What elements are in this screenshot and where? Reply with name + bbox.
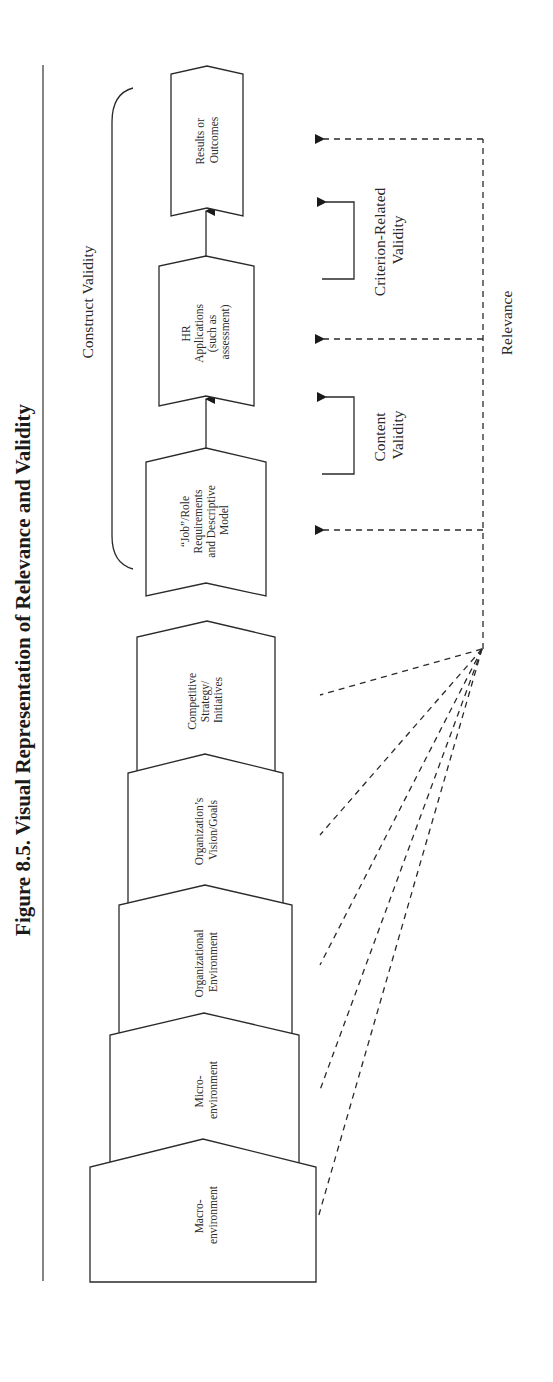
label-line: Criterion-Related [371,187,388,296]
box-label-line: Strategy/ [199,680,212,722]
box-label-line: Requirements [192,489,205,553]
box-label-line: Competitive [186,673,199,730]
label-line: Validity [389,215,406,264]
svg-text:Competitive Strategy/: Competitive Strategy/ Initiatives [186,670,224,730]
box-label-line: environment [207,1060,219,1119]
label-line: Content [371,412,388,462]
figure-title: Figure 8.5. Visual Representation of Rel… [11,404,35,936]
relevance-connectors [318,139,483,1218]
content-validity-bracket [322,397,354,474]
construct-validity-brace [112,88,133,569]
relevance-label: Relevance [498,291,515,356]
box-label-line: Model [218,505,230,535]
relevance-line-competitive [320,649,482,695]
box-label-line: environment [207,1185,219,1244]
box-macro-environment: Macro- environment [90,1139,316,1282]
box-label-line: (such as [206,314,219,352]
relevance-line-macro [318,649,482,1218]
box-job-role-requirements: “Job”/Role Requirements and Descriptive … [146,448,266,596]
content-validity-label: Content Validity [371,409,406,462]
construct-validity-label: Construct Validity [79,245,96,358]
box-label-line: Outcomes [208,116,220,163]
box-label-line: Organizational [193,929,206,997]
criterion-validity-bracket [322,202,354,279]
criterion-validity-label: Criterion-Related Validity [371,184,406,296]
label-line: Validity [389,410,406,459]
box-label-line: Environment [207,931,219,992]
box-label-line: Applications [193,304,206,363]
box-label-line: Vision/Goals [207,799,219,860]
box-label-line: Initiatives [212,676,224,723]
box-label-line: Organization’s [193,797,206,865]
box-results-outcomes: Results or Outcomes [171,66,243,216]
box-label-line: HR [180,325,192,341]
box-label-line: Micro- [193,1075,205,1107]
box-label-line: “Job”/Role [179,496,191,547]
box-hr-applications: HR Applications (such as assessment) [159,256,254,406]
box-label-line: assessment) [219,304,232,359]
box-label-line: Macro- [193,1199,205,1233]
box-label-line: Results or [194,118,206,164]
relevance-line-micro [320,649,482,1090]
figure-canvas: Figure 8.5. Visual Representation of Rel… [0,0,553,1382]
box-label-line: and Descriptive [205,485,218,558]
